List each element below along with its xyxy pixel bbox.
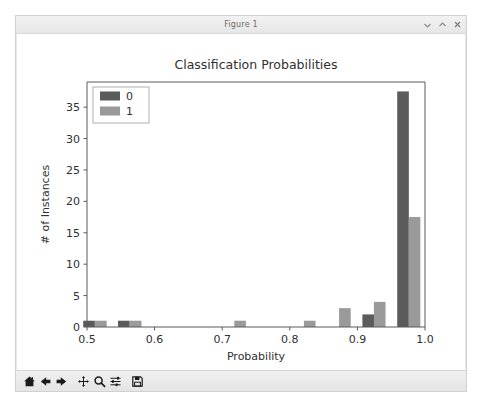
- y-axis-label: # of Instances: [39, 165, 52, 245]
- chart-title: Classification Probabilities: [174, 57, 337, 72]
- y-tick-label: 25: [66, 164, 80, 177]
- zoom-button[interactable]: [92, 374, 107, 389]
- x-tick-label: 0.9: [349, 333, 367, 346]
- y-tick-label: 15: [66, 227, 80, 240]
- histogram-bar: [339, 308, 351, 327]
- matplotlib-toolbar: [16, 370, 466, 391]
- home-button[interactable]: [22, 374, 37, 389]
- back-button[interactable]: [38, 374, 53, 389]
- histogram-bar: [397, 91, 409, 327]
- x-axis-label: Probability: [227, 350, 286, 363]
- forward-button[interactable]: [54, 374, 69, 389]
- histogram-bar: [304, 321, 316, 327]
- legend-label: 1: [126, 105, 133, 118]
- histogram-bar: [130, 321, 142, 327]
- y-tick-label: 0: [73, 321, 80, 334]
- y-tick-label: 35: [66, 101, 80, 114]
- y-tick-label: 5: [73, 290, 80, 303]
- figure-window: Figure 1 Classification Probabilities0.5…: [15, 15, 467, 392]
- histogram-bar: [409, 217, 421, 327]
- histogram-bar: [362, 314, 374, 327]
- y-tick-label: 20: [66, 195, 80, 208]
- histogram-plot: Classification Probabilities0.50.60.70.8…: [17, 34, 467, 372]
- chart-legend: 01: [93, 87, 149, 123]
- x-tick-label: 0.8: [281, 333, 299, 346]
- y-tick-label: 10: [66, 258, 80, 271]
- legend-label: 0: [126, 90, 133, 103]
- configure-subplots-button[interactable]: [108, 374, 123, 389]
- figure-canvas[interactable]: Classification Probabilities0.50.60.70.8…: [16, 34, 466, 370]
- save-figure-button[interactable]: [130, 374, 145, 389]
- histogram-bar: [118, 321, 130, 327]
- x-tick-label: 0.6: [146, 333, 164, 346]
- maximize-button[interactable]: [438, 20, 447, 29]
- x-tick-label: 0.5: [78, 333, 96, 346]
- x-tick-label: 1.0: [416, 333, 434, 346]
- window-titlebar[interactable]: Figure 1: [16, 16, 466, 34]
- close-button[interactable]: [453, 20, 462, 29]
- pan-button[interactable]: [76, 374, 91, 389]
- window-controls: [423, 16, 462, 33]
- y-tick-label: 30: [66, 133, 80, 146]
- histogram-bar: [95, 321, 107, 327]
- window-title: Figure 1: [224, 20, 258, 29]
- histogram-bar: [374, 302, 386, 327]
- histogram-bar: [83, 321, 95, 327]
- minimize-button[interactable]: [423, 20, 432, 29]
- toolbar-separator: [70, 374, 75, 389]
- x-tick-label: 0.7: [213, 333, 231, 346]
- histogram-bar: [234, 321, 246, 327]
- toolbar-separator-2: [124, 374, 129, 389]
